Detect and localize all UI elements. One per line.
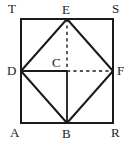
rhombus-side-DB	[21, 71, 67, 123]
vertex-label-D: D	[7, 64, 16, 77]
vertex-label-T: T	[8, 2, 16, 15]
rhombus-side-EF	[67, 19, 113, 71]
vertex-label-E: E	[62, 3, 70, 16]
vertex-label-S: S	[112, 2, 119, 15]
vertex-label-A: A	[10, 126, 19, 139]
vertex-label-F: F	[117, 64, 124, 77]
vertex-label-R: R	[111, 126, 120, 139]
vertex-label-C: C	[52, 56, 61, 69]
geometry-figure: T E S D C F A B R	[0, 0, 133, 145]
vertex-label-B: B	[62, 127, 71, 140]
geometry-canvas	[0, 0, 133, 145]
rhombus-side-BF	[67, 71, 113, 123]
